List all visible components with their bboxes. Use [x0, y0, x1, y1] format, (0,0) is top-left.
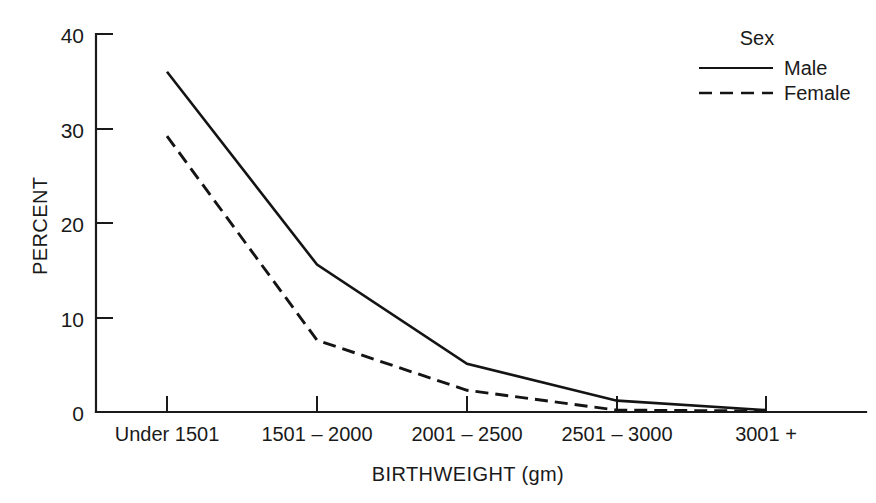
series-line-female [167, 136, 766, 411]
x-tick-label-under-1501: Under 1501 [82, 424, 252, 444]
y-tick-label-0: 0 [44, 403, 84, 424]
series-line-male [167, 72, 766, 410]
y-tick-label-30: 30 [44, 120, 84, 141]
chart-figure: 40 30 20 10 0 Under 1501 1501 – 2000 200… [0, 0, 876, 503]
y-axis-title: PERCENT [30, 177, 50, 275]
x-tick-label-3001-plus: 3001 + [681, 424, 851, 444]
legend-title: Sex [697, 28, 817, 48]
x-tick-label-2501-3000: 2501 – 3000 [532, 424, 702, 444]
y-tick-label-10: 10 [44, 309, 84, 330]
x-axis-title: BIRTHWEIGHT (gm) [308, 464, 628, 484]
legend-label-male: Male [784, 58, 827, 78]
y-tick-label-40: 40 [44, 25, 84, 46]
legend-label-female: Female [784, 83, 851, 103]
x-tick-label-2001-2500: 2001 – 2500 [382, 424, 552, 444]
x-tick-label-1501-2000: 1501 – 2000 [232, 424, 402, 444]
